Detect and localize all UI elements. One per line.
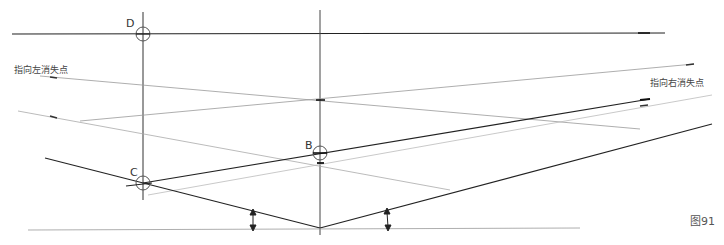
point-c-label: C bbox=[130, 166, 138, 179]
arrow-tick bbox=[686, 64, 694, 65]
arrow-tick bbox=[640, 99, 650, 100]
arrow-tick bbox=[50, 77, 57, 78]
arrow-tick bbox=[50, 116, 57, 118]
angle-arrow-left bbox=[250, 209, 256, 231]
top-horizontal-line bbox=[12, 33, 665, 34]
point-b-label: B bbox=[305, 139, 313, 152]
line-c-to-b bbox=[143, 99, 650, 183]
guide-line-right-vp-2 bbox=[148, 95, 712, 195]
left-vanishing-point-label: 指向左消失点 bbox=[14, 63, 68, 76]
guide-line-left-vp-1 bbox=[40, 76, 640, 129]
perspective-diagram bbox=[0, 0, 724, 245]
arrow-tick bbox=[640, 105, 648, 106]
guide-line-right-vp-1 bbox=[80, 64, 694, 121]
figure-caption: 图91 bbox=[690, 212, 715, 228]
point-d-label: D bbox=[126, 17, 134, 30]
line-left-to-vertex bbox=[45, 158, 320, 228]
ground-line bbox=[28, 228, 580, 230]
line-vertex-to-right bbox=[320, 124, 712, 228]
guide-line-left-vp-2 bbox=[18, 111, 450, 190]
angle-arrow-right bbox=[384, 208, 391, 231]
right-vanishing-point-label: 指向右消失点 bbox=[650, 76, 704, 89]
